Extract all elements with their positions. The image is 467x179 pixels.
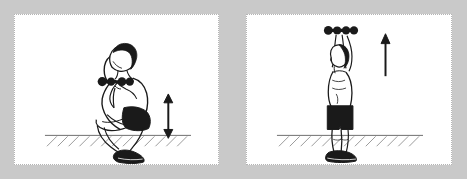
illustration-root xyxy=(0,0,467,179)
shoe xyxy=(113,150,144,163)
panel-2-artwork xyxy=(247,15,451,164)
panel-overhead-press-position xyxy=(234,0,467,179)
panel-1-artwork xyxy=(15,15,218,164)
panel-1-frame xyxy=(14,14,219,165)
panel-squat-position xyxy=(0,0,234,179)
shoe xyxy=(326,151,357,163)
ground-hatching xyxy=(47,136,187,146)
vertical-double-arrow-icon xyxy=(164,94,173,138)
athlete-overhead-figure xyxy=(324,26,358,162)
panel-2-frame xyxy=(246,14,452,165)
dumbbell-right-panel xyxy=(324,26,358,35)
ground-hatching xyxy=(279,136,419,146)
vertical-up-arrow-icon xyxy=(381,34,390,76)
